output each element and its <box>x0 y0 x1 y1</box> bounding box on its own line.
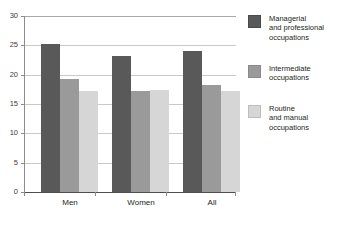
x-tick-mark-0 <box>24 192 25 196</box>
y-tick-mark-10 <box>21 133 24 134</box>
legend-label-managerial: Managerial and professional occupations <box>269 14 324 42</box>
x-axis-line <box>24 192 236 193</box>
legend-swatch-routine-icon <box>248 105 261 118</box>
gridline-30 <box>25 16 236 17</box>
bar-chart: 30 25 20 15 10 5 0 <box>0 0 338 226</box>
bar-men-managerial <box>41 44 60 192</box>
y-tick-label-10: 10 <box>10 130 18 138</box>
legend-item-routine: Routine and manual occupations <box>248 104 309 132</box>
x-tick-mark-3 <box>235 192 236 196</box>
bar-men-intermediate <box>60 79 79 192</box>
y-tick-mark-5 <box>21 163 24 164</box>
x-category-label-women: Women <box>127 198 154 207</box>
y-tick-mark-25 <box>21 45 24 46</box>
x-tick-mark-2 <box>166 192 167 196</box>
bar-men-routine <box>79 91 98 192</box>
legend-item-managerial: Managerial and professional occupations <box>248 14 324 42</box>
y-axis-line <box>24 16 25 193</box>
bar-women-managerial <box>112 56 131 192</box>
legend-label-intermediate: Intermediate occupations <box>269 64 311 83</box>
y-tick-label-20: 20 <box>10 71 18 79</box>
bar-women-intermediate <box>131 91 150 192</box>
x-tick-mark-1 <box>95 192 96 196</box>
legend-swatch-managerial-icon <box>248 15 261 28</box>
bar-women-routine <box>150 90 169 192</box>
x-category-label-all: All <box>208 198 217 207</box>
legend-label-routine: Routine and manual occupations <box>269 104 309 132</box>
y-tick-label-5: 5 <box>14 159 18 167</box>
y-tick-mark-30 <box>21 16 24 17</box>
y-tick-mark-15 <box>21 104 24 105</box>
bar-all-routine <box>221 91 240 192</box>
plot-area-wrapper: 30 25 20 15 10 5 0 <box>24 16 236 193</box>
y-tick-label-30: 30 <box>10 12 18 20</box>
bar-all-managerial <box>183 51 202 192</box>
y-tick-label-15: 15 <box>10 100 18 108</box>
y-tick-mark-20 <box>21 75 24 76</box>
legend-item-intermediate: Intermediate occupations <box>248 64 311 83</box>
bar-all-intermediate <box>202 85 221 192</box>
y-tick-label-0: 0 <box>14 188 18 196</box>
x-category-label-men: Men <box>62 198 78 207</box>
y-tick-label-25: 25 <box>10 42 18 50</box>
legend-swatch-intermediate-icon <box>248 65 261 78</box>
plot-area: 30 25 20 15 10 5 0 <box>24 16 236 193</box>
